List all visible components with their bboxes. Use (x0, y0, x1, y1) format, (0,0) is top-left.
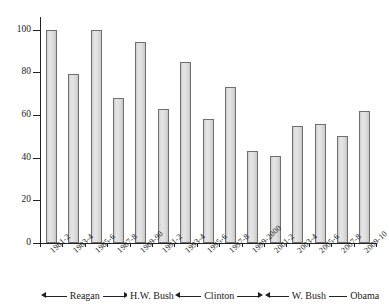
bar (203, 119, 214, 243)
era-bracket-line (329, 296, 348, 297)
bar (247, 151, 258, 243)
era-bracket-line (180, 296, 201, 297)
bar (68, 74, 79, 243)
era-arrow-left-icon (265, 292, 270, 298)
y-tick-label: 80 (0, 66, 31, 76)
era-label: H.W. Bush (127, 289, 177, 302)
bar (359, 111, 370, 243)
era-arrow-left-icon (41, 292, 46, 298)
era-label: Reagan (67, 289, 103, 302)
bar (46, 30, 57, 243)
era-label: W. Bush (289, 289, 329, 302)
bar (135, 42, 146, 243)
bar (91, 30, 102, 243)
y-tick-mark (33, 72, 40, 73)
bar (158, 109, 169, 243)
bar (337, 136, 348, 243)
y-tick-mark (33, 115, 40, 116)
x-tick-mark (40, 243, 41, 247)
bar-series (40, 19, 376, 243)
bar (113, 98, 124, 243)
y-tick-mark (33, 30, 40, 31)
bar (292, 126, 303, 243)
y-tick-mark (33, 158, 40, 159)
y-tick-mark (33, 200, 40, 201)
president-era-brackets: ReaganH.W. BushClintonW. BushObama (0, 288, 380, 306)
bar (315, 124, 326, 243)
y-tick-mark (33, 243, 40, 244)
era-bracket-line (103, 296, 124, 297)
y-tick-label: 60 (0, 109, 31, 119)
y-tick-label: 20 (0, 194, 31, 204)
bar (180, 62, 191, 243)
era-arrow-left-icon (175, 292, 180, 298)
era-bracket-line (46, 296, 67, 297)
y-tick-label: 0 (0, 237, 31, 247)
y-tick-label: 100 (0, 24, 31, 34)
y-tick-label: 40 (0, 152, 31, 162)
era-label: Clinton (201, 289, 237, 302)
era-bracket-line (237, 296, 258, 297)
era-label: Obama (347, 289, 382, 302)
era-bracket-line (270, 296, 289, 297)
era-arrow-right-icon (258, 292, 263, 298)
bar (225, 87, 236, 243)
